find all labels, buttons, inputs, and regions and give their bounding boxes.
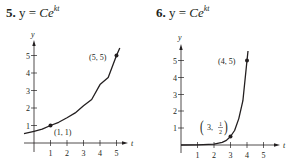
svg-text:1: 1 bbox=[196, 151, 200, 160]
svg-text:5: 5 bbox=[173, 57, 177, 66]
graph-5: y t 1 2 3 4 5 1 2 bbox=[0, 0, 150, 165]
svg-text:5: 5 bbox=[115, 149, 119, 158]
svg-text:5: 5 bbox=[262, 151, 266, 160]
svg-text:): ) bbox=[224, 118, 228, 137]
svg-text:1: 1 bbox=[26, 122, 30, 131]
svg-text:1: 1 bbox=[49, 149, 53, 158]
graph-6: y t 1 2 3 4 5 1 2 bbox=[150, 0, 301, 165]
x-axis-label: t bbox=[131, 139, 134, 148]
x-axis-label: t bbox=[283, 141, 286, 150]
exponential-curve bbox=[181, 51, 248, 145]
svg-text:5: 5 bbox=[26, 52, 30, 61]
y-axis-label: y bbox=[30, 30, 35, 39]
svg-text:3: 3 bbox=[229, 151, 233, 160]
svg-text:3: 3 bbox=[82, 149, 86, 158]
y-tick-labels: 1 2 3 4 5 bbox=[26, 52, 30, 131]
point-1-1 bbox=[49, 124, 53, 128]
x-axis-arrow-icon bbox=[122, 141, 128, 144]
y-axis-label: y bbox=[177, 33, 182, 42]
y-tick-labels: 1 2 3 4 5 bbox=[173, 57, 177, 134]
svg-text:2: 2 bbox=[212, 151, 216, 160]
svg-text:(: ( bbox=[200, 118, 204, 137]
svg-text:4: 4 bbox=[245, 151, 249, 160]
point-label-5-5: (5, 5) bbox=[89, 53, 107, 62]
svg-text:2: 2 bbox=[173, 107, 177, 116]
point-label-4-5: (4, 5) bbox=[218, 57, 236, 66]
point-3-half bbox=[229, 135, 233, 139]
point-4-5 bbox=[245, 59, 249, 63]
y-axis-arrow-icon bbox=[32, 40, 35, 46]
svg-text:1: 1 bbox=[219, 121, 222, 127]
svg-text:4: 4 bbox=[98, 149, 102, 158]
svg-text:2: 2 bbox=[219, 129, 222, 135]
svg-text:2: 2 bbox=[65, 149, 69, 158]
x-axis-arrow-icon bbox=[274, 143, 280, 146]
point-label-1-1: (1, 1) bbox=[54, 128, 72, 137]
svg-text:3: 3 bbox=[26, 87, 30, 96]
x-tick-labels: 1 2 3 4 5 bbox=[196, 151, 266, 160]
svg-text:1: 1 bbox=[173, 124, 177, 133]
problem-6: 6. y = Cekt y t 1 2 3 4 5 bbox=[150, 0, 301, 165]
svg-text:4: 4 bbox=[173, 74, 177, 83]
svg-text:2: 2 bbox=[26, 104, 30, 113]
svg-text:4: 4 bbox=[26, 69, 30, 78]
svg-text:3,: 3, bbox=[207, 123, 213, 132]
point-5-5 bbox=[115, 54, 119, 58]
problem-5: 5. y = Cekt y t 1 2 3 4 5 bbox=[0, 0, 150, 165]
y-axis-arrow-icon bbox=[179, 44, 182, 50]
point-label-3-half: ( 3, 1 2 ) bbox=[200, 118, 228, 137]
x-tick-labels: 1 2 3 4 5 bbox=[49, 149, 119, 158]
svg-text:3: 3 bbox=[173, 91, 177, 100]
